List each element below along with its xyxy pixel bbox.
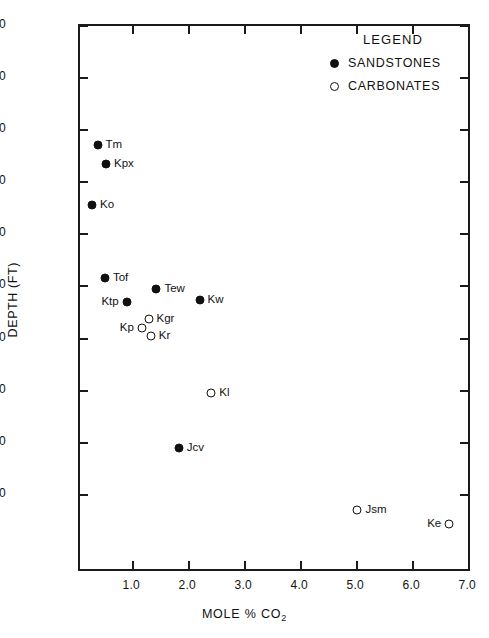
filled-circle-icon: [330, 59, 339, 68]
x-axis-tick: [468, 561, 470, 569]
x-axis-title-subscript: 2: [281, 613, 287, 623]
y-axis-tick: [80, 129, 88, 131]
y-axis-tick-label: 11000: [0, 486, 6, 500]
legend-title: LEGEND: [316, 32, 476, 47]
y-axis-tick-label: 6000: [0, 225, 6, 239]
open-circle-icon: [137, 324, 146, 333]
data-point-label: Kgr: [157, 312, 175, 324]
x-axis-tick-label: 1.0: [123, 578, 140, 592]
filled-circle-icon: [122, 298, 131, 307]
x-axis-tick-label: 7.0: [459, 578, 476, 592]
x-axis-tick: [188, 26, 190, 34]
x-axis-title: MOLE % CO2: [0, 607, 489, 623]
open-circle-icon: [146, 332, 155, 341]
x-axis-tick: [244, 26, 246, 34]
x-axis-tick-label: 5.0: [347, 578, 364, 592]
filled-circle-icon: [152, 284, 161, 293]
y-axis-tick: [80, 390, 88, 392]
open-circle-icon: [144, 315, 153, 324]
legend-item-label: SANDSTONES: [348, 56, 441, 70]
x-axis-tick: [244, 561, 246, 569]
filled-circle-icon: [100, 273, 109, 282]
x-axis-tick: [132, 26, 134, 34]
data-point-label: Ktp: [101, 295, 118, 307]
x-axis-tick-label: 6.0: [403, 578, 420, 592]
y-axis-tick: [460, 285, 468, 287]
filled-circle-icon: [174, 443, 183, 452]
y-axis-tick: [80, 181, 88, 183]
x-axis-tick-label: 3.0: [235, 578, 252, 592]
open-circle-icon: [330, 82, 339, 91]
y-axis-tick-label: 4000: [0, 121, 6, 135]
data-point-label: Kl: [219, 386, 229, 398]
y-axis-tick: [460, 494, 468, 496]
y-axis-tick: [460, 181, 468, 183]
x-axis-tick-label: 2.0: [179, 578, 196, 592]
filled-circle-icon: [88, 200, 97, 209]
x-axis-tick: [188, 561, 190, 569]
data-point-label: Kpx: [114, 157, 134, 169]
y-axis-tick: [460, 129, 468, 131]
y-axis-tick: [460, 233, 468, 235]
filled-circle-icon: [93, 140, 102, 149]
data-point-label: Ke: [427, 517, 441, 529]
y-axis-tick: [80, 77, 88, 79]
legend-item-carbonates: CARBONATES: [316, 79, 476, 93]
data-point-label: Kw: [208, 293, 224, 305]
filled-circle-icon: [195, 296, 204, 305]
data-point-label: Kr: [159, 329, 171, 341]
legend-item-label: CARBONATES: [348, 79, 440, 93]
data-point-label: Jsm: [365, 503, 386, 515]
y-axis-tick-label: 3000: [0, 69, 6, 83]
open-circle-icon: [445, 520, 454, 529]
y-axis-tick-label: 9000: [0, 382, 6, 396]
x-axis-tick: [132, 561, 134, 569]
legend-item-sandstones: SANDSTONES: [316, 56, 476, 70]
plot-area: [78, 24, 470, 571]
x-axis-title-main: MOLE % CO: [202, 607, 281, 621]
y-axis-tick: [80, 285, 88, 287]
data-point-label: Tew: [164, 282, 184, 294]
filled-circle-icon: [102, 160, 111, 169]
y-axis-tick: [80, 442, 88, 444]
y-axis-tick: [80, 233, 88, 235]
y-axis-tick-label: 2000: [0, 17, 6, 31]
x-axis-tick: [356, 561, 358, 569]
y-axis-tick: [460, 390, 468, 392]
open-circle-icon: [207, 388, 216, 397]
data-point-label: Kp: [120, 321, 134, 333]
y-axis-tick: [80, 338, 88, 340]
y-axis-tick-label: 5000: [0, 173, 6, 187]
data-point-label: Tm: [106, 138, 123, 150]
data-point-label: Jcv: [187, 441, 204, 453]
open-circle-icon: [353, 506, 362, 515]
y-axis-tick: [80, 25, 88, 27]
y-axis-tick: [460, 442, 468, 444]
data-point-label: Ko: [100, 198, 114, 210]
legend: LEGEND SANDSTONES CARBONATES: [316, 32, 476, 93]
x-axis-tick: [412, 561, 414, 569]
y-axis-tick: [460, 338, 468, 340]
x-axis-tick-label: 4.0: [291, 578, 308, 592]
y-axis-tick-label: 7000: [0, 277, 6, 291]
y-axis-tick: [460, 25, 468, 27]
y-axis-tick-label: 10000: [0, 434, 6, 448]
scatter-chart-figure: DEPTH (FT) 20003000400050006000700080009…: [0, 0, 489, 638]
y-axis-tick-label: 8000: [0, 330, 6, 344]
y-axis-title: DEPTH (FT): [6, 262, 20, 337]
data-point-label: Tof: [113, 271, 128, 283]
y-axis-tick: [80, 494, 88, 496]
x-axis-tick: [300, 26, 302, 34]
x-axis-tick: [300, 561, 302, 569]
